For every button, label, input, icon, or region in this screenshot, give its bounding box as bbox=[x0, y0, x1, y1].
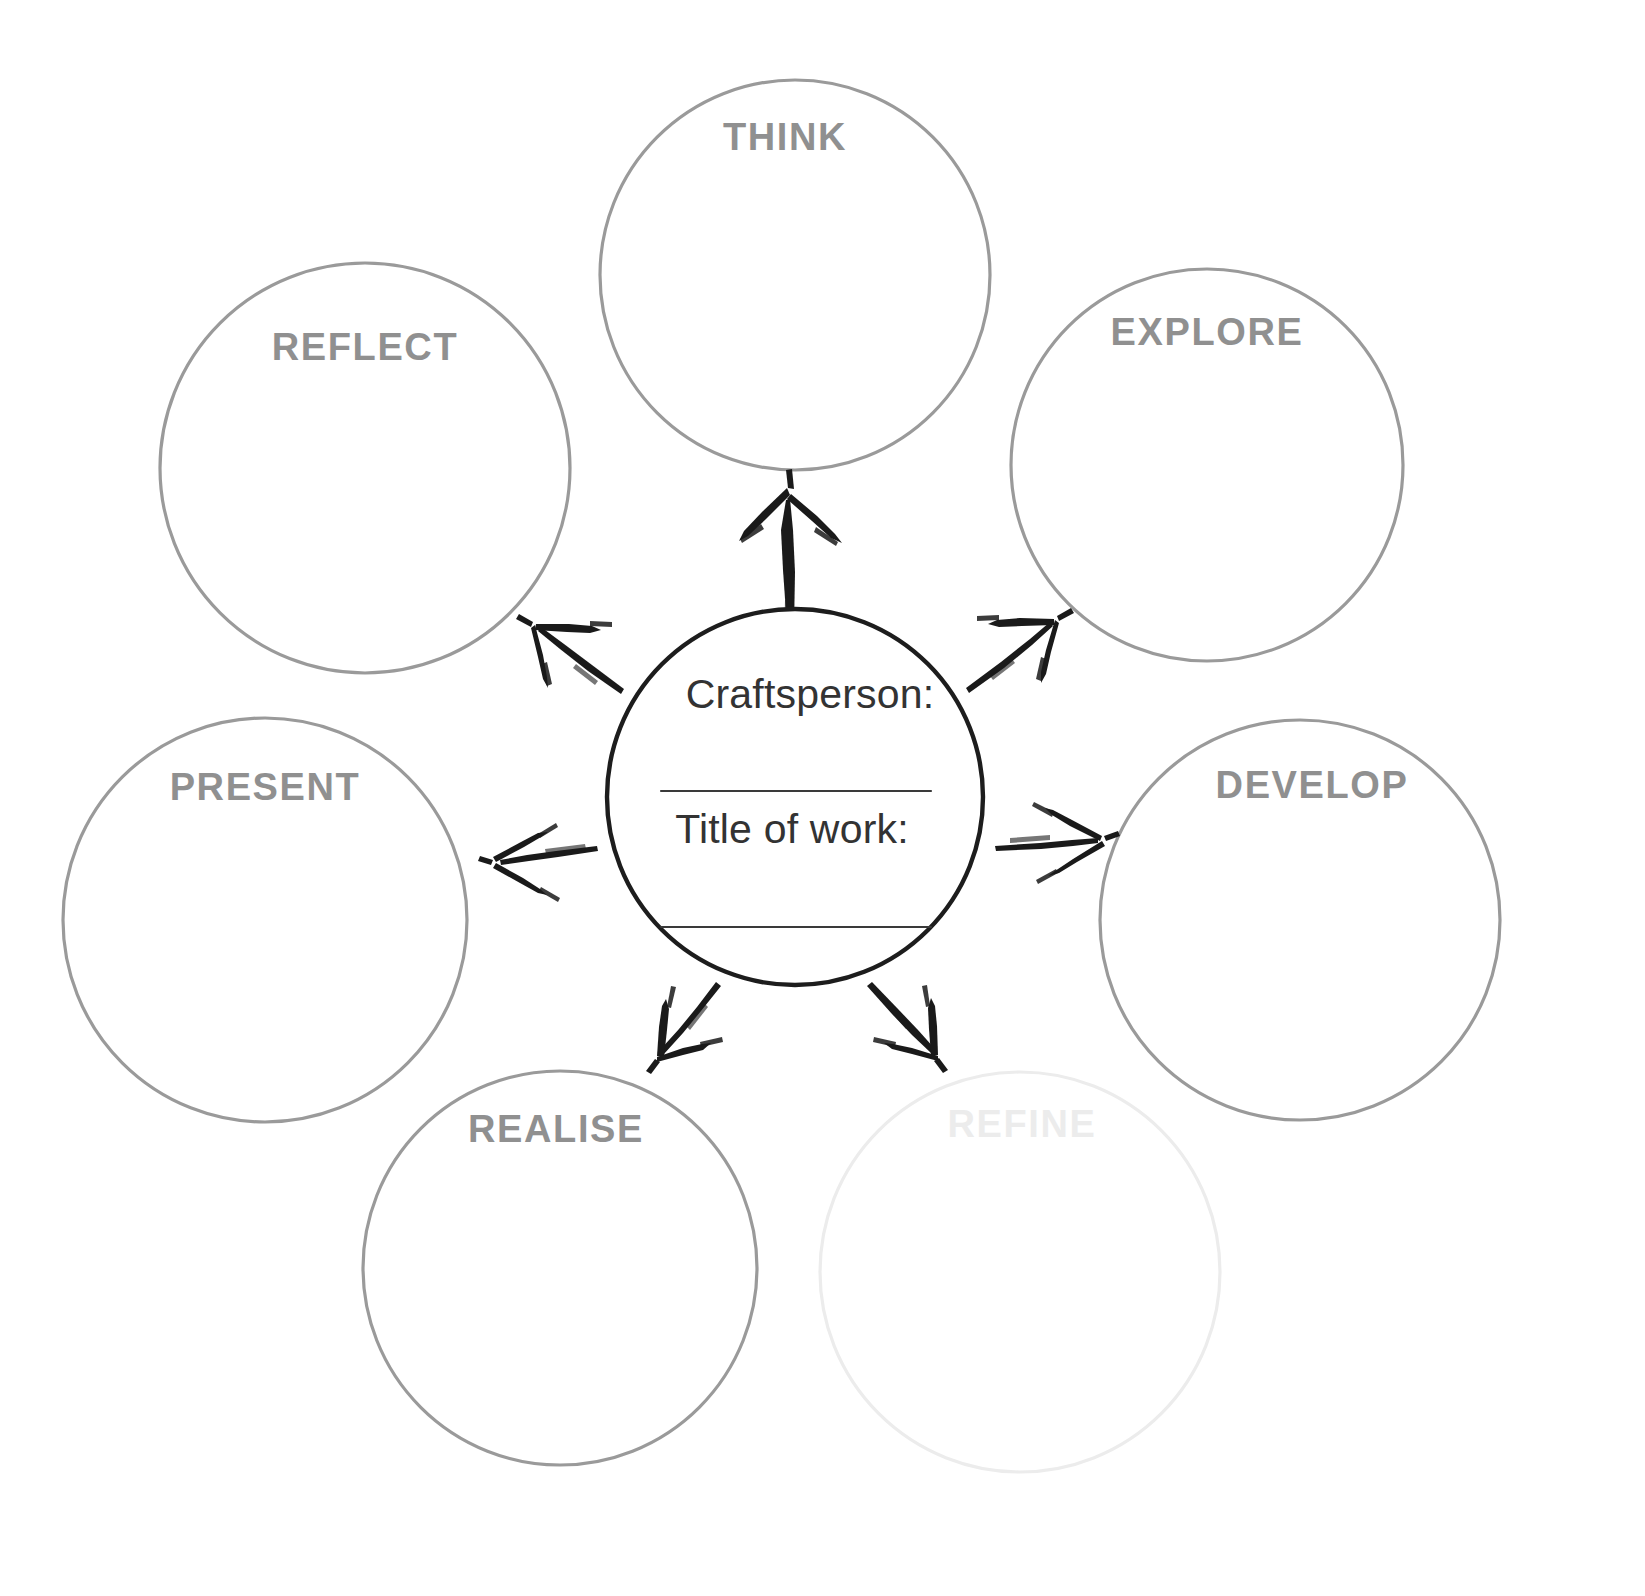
node-group-reflect[interactable]: REFLECT bbox=[160, 263, 570, 673]
title-of-work-label: Title of work: bbox=[675, 806, 909, 852]
center-hub[interactable]: Craftsperson: Title of work: bbox=[607, 609, 983, 985]
node-label-refine: REFINE bbox=[948, 1103, 1097, 1145]
radial-process-diagram: THINK EXPLORE DEVELOP REFINE REALISE PRE… bbox=[0, 0, 1645, 1596]
node-group-realise[interactable]: REALISE bbox=[363, 1071, 757, 1465]
arrow-to-develop bbox=[995, 802, 1120, 884]
arrow-to-reflect bbox=[516, 614, 624, 694]
craftsperson-label: Craftsperson: bbox=[686, 671, 935, 717]
node-group-think[interactable]: THINK bbox=[600, 80, 990, 470]
node-label-present: PRESENT bbox=[170, 766, 361, 808]
center-hub-circle[interactable] bbox=[607, 609, 983, 985]
node-label-realise: REALISE bbox=[468, 1108, 644, 1150]
node-label-explore: EXPLORE bbox=[1111, 311, 1304, 353]
node-group-refine[interactable]: REFINE bbox=[820, 1072, 1220, 1472]
arrow-to-realise bbox=[646, 982, 723, 1074]
node-label-reflect: REFLECT bbox=[272, 326, 458, 368]
node-circle-reflect[interactable] bbox=[160, 263, 570, 673]
node-group-explore[interactable]: EXPLORE bbox=[1011, 269, 1403, 661]
arrow-to-refine bbox=[867, 982, 948, 1073]
arrow-to-explore bbox=[966, 608, 1074, 693]
node-group-develop[interactable]: DEVELOP bbox=[1100, 720, 1500, 1120]
node-label-develop: DEVELOP bbox=[1216, 764, 1409, 806]
node-group-present[interactable]: PRESENT bbox=[63, 718, 467, 1122]
diagram-canvas: THINK EXPLORE DEVELOP REFINE REALISE PRE… bbox=[0, 0, 1645, 1596]
node-label-think: THINK bbox=[723, 116, 847, 158]
arrow-to-present bbox=[478, 823, 598, 902]
